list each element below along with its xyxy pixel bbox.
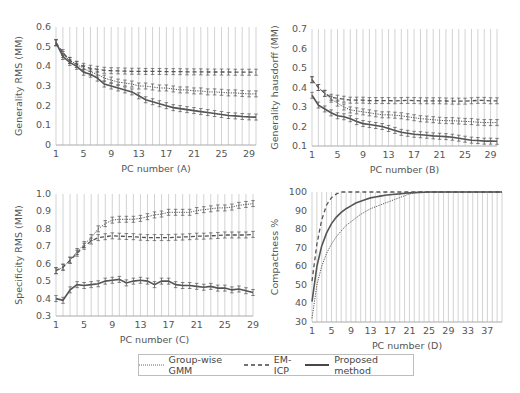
chart-generality-hausdorff: 0.10.20.30.40.50.60.71591317212529PC num… [269, 23, 499, 175]
x-axis-label: PC number (B) [370, 164, 439, 175]
chart-compactness: 3040506070809010015913172125293337PC num… [269, 186, 502, 351]
grid-lines [56, 27, 256, 145]
y-tick-label: 0.5 [36, 41, 51, 52]
legend-item-group-wise-gmm: Group-wise GMM [139, 354, 244, 376]
error-bars [54, 40, 258, 97]
y-tick-label: 0.2 [36, 100, 51, 111]
y-tick-label: 90 [295, 205, 307, 216]
x-axis-label: PC number (C) [120, 334, 190, 345]
y-axis-label: Compactness % [269, 219, 280, 295]
series-group-wise-gmm [56, 43, 256, 94]
x-tick-label: 1 [309, 325, 315, 336]
x-tick-label: 1 [309, 149, 315, 160]
x-tick-label: 9 [108, 148, 114, 159]
y-tick-label: 0.7 [36, 240, 51, 251]
grid-lines [312, 29, 497, 146]
y-tick-label: 40 [295, 297, 307, 308]
x-tick-label: 9 [348, 325, 354, 336]
y-axis-label: Generality RMS (MM) [13, 36, 24, 136]
y-tick-label: 60 [295, 260, 307, 271]
y-tick-label: 0 [45, 139, 51, 150]
y-tick-label: 0.9 [36, 205, 51, 216]
chart-specificity-rms: 0.30.40.50.60.70.80.91.01591317212529PC … [13, 188, 259, 345]
y-tick-label: 0.5 [36, 275, 51, 286]
legend-label: Group-wise GMM [169, 354, 245, 376]
x-axis-label: PC number (A) [121, 163, 190, 174]
series-proposed-method [56, 43, 256, 117]
x-tick-label: 9 [109, 319, 115, 330]
y-tick-label: 0.7 [292, 23, 307, 34]
x-tick-label: 13 [134, 319, 146, 330]
y-tick-label: 0.6 [36, 258, 51, 269]
y-tick-label: 50 [295, 279, 307, 290]
y-tick-label: 1.0 [36, 188, 51, 199]
legend-label: Proposed method [334, 354, 413, 376]
legend-item-proposed-method: Proposed method [305, 354, 413, 376]
legend-item-em-icp: EM-ICP [244, 354, 304, 376]
dashed-line-icon [244, 362, 268, 368]
x-tick-label: 25 [423, 325, 435, 336]
series-em-icp [312, 192, 502, 281]
y-tick-label: 0.3 [36, 80, 51, 91]
y-axis-label: Specificity RMS (MM) [13, 205, 24, 305]
legend: Group-wise GMM EM-ICP Proposed method [138, 354, 414, 376]
x-tick-label: 37 [481, 325, 493, 336]
grid-lines [312, 192, 502, 322]
x-tick-label: 25 [459, 149, 471, 160]
legend-label: EM-ICP [274, 354, 305, 376]
dotted-line-icon [139, 362, 164, 368]
y-tick-label: 0.3 [292, 101, 307, 112]
x-axis-label: PC number (D) [372, 340, 442, 351]
series-em-icp [56, 43, 256, 72]
x-tick-label: 17 [160, 148, 172, 159]
y-tick-label: 0.1 [36, 119, 51, 130]
figure-canvas: 00.10.20.30.40.50.61591317212529PC numbe… [0, 0, 520, 393]
x-tick-label: 21 [188, 148, 200, 159]
x-tick-label: 13 [383, 149, 395, 160]
x-tick-label: 1 [53, 319, 59, 330]
x-tick-label: 33 [462, 325, 474, 336]
x-tick-label: 29 [485, 149, 497, 160]
x-tick-label: 21 [434, 149, 446, 160]
y-tick-label: 0.4 [36, 60, 51, 71]
y-tick-label: 0.8 [36, 223, 51, 234]
y-tick-label: 0.2 [292, 121, 307, 132]
x-tick-label: 21 [191, 319, 203, 330]
y-tick-label: 0.6 [36, 21, 51, 32]
x-tick-label: 25 [219, 319, 231, 330]
x-tick-label: 29 [247, 319, 259, 330]
x-tick-label: 5 [328, 325, 334, 336]
x-tick-label: 17 [408, 149, 420, 160]
x-tick-label: 9 [360, 149, 366, 160]
series-proposed-method [312, 95, 497, 141]
x-tick-label: 29 [243, 148, 255, 159]
series-group-wise-gmm [312, 192, 502, 318]
x-tick-label: 5 [81, 319, 87, 330]
solid-line-icon [305, 362, 330, 368]
series-em-icp [312, 80, 497, 102]
x-tick-label: 21 [403, 325, 415, 336]
x-tick-label: 17 [163, 319, 175, 330]
x-tick-label: 25 [215, 148, 227, 159]
chart-generality-rms: 00.10.20.30.40.50.61591317212529PC numbe… [13, 21, 258, 174]
y-tick-label: 100 [289, 186, 307, 197]
y-tick-label: 0.5 [292, 62, 307, 73]
series-proposed-method [312, 192, 502, 302]
x-tick-label: 5 [81, 148, 87, 159]
error-bars [54, 40, 258, 75]
y-axis-label: Generality hausdorff (MM) [269, 25, 280, 149]
x-tick-label: 13 [133, 148, 145, 159]
x-tick-label: 5 [334, 149, 340, 160]
y-tick-label: 0.3 [36, 310, 51, 321]
y-tick-label: 30 [295, 316, 307, 327]
y-tick-label: 0.6 [292, 43, 307, 54]
x-tick-label: 17 [384, 325, 396, 336]
y-tick-label: 70 [295, 242, 307, 253]
y-tick-label: 0.4 [36, 293, 51, 304]
y-tick-label: 80 [295, 223, 307, 234]
y-tick-label: 0.1 [292, 140, 307, 151]
x-tick-label: 29 [442, 325, 454, 336]
x-tick-label: 13 [364, 325, 376, 336]
y-tick-label: 0.4 [292, 82, 307, 93]
error-bars [54, 40, 258, 120]
